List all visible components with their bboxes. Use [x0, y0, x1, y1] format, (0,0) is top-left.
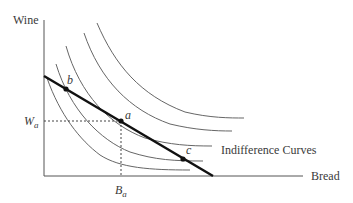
wa-label: Wa [24, 114, 39, 130]
y-axis-label: Wine [13, 13, 39, 27]
x-axis-label: Bread [311, 169, 340, 183]
indifference-diagram: Wine Bread Indifference Curves b a c Wa … [0, 0, 353, 203]
point-a [118, 118, 123, 123]
ba-label: Ba [115, 183, 127, 199]
budget-line [44, 76, 213, 176]
ba-subscript: a [122, 189, 127, 199]
point-a-label: a [125, 108, 131, 122]
point-b [63, 86, 68, 91]
point-c [180, 156, 185, 161]
indifference-curve-5 [97, 23, 244, 118]
wa-subscript: a [34, 120, 39, 130]
point-c-label: c [186, 143, 192, 157]
point-b-label: b [67, 73, 73, 87]
curves-label: Indifference Curves [221, 143, 317, 157]
